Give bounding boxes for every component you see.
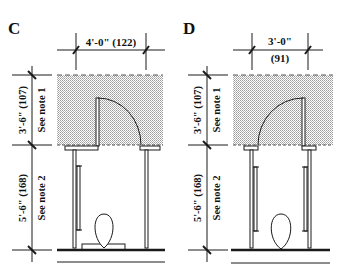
clearance-area-c	[57, 75, 163, 145]
grab-bar-right-d	[304, 167, 307, 231]
toilet-stall-diagrams: C 4'-0" (122) 3'-6" (107) See note 1 5'-…	[0, 0, 350, 276]
lower-depth-label-c: 5'-6" (168)	[17, 173, 29, 222]
front-partition-c	[65, 146, 160, 150]
figure-c: C 4'-0" (122) 3'-6" (107) See note 1 5'-…	[8, 19, 165, 262]
grab-bar-left-d	[254, 167, 257, 231]
toilet-c	[82, 214, 125, 250]
front-partition-d	[244, 146, 316, 150]
grab-bar-c	[77, 166, 80, 230]
lower-depth-note-c: See note 2	[36, 176, 47, 221]
upper-depth-label-d: 3'-6" (107)	[192, 85, 204, 134]
figure-label-d: D	[183, 19, 195, 38]
figure-label-c: C	[8, 19, 20, 38]
upper-depth-note-d: See note 1	[211, 88, 222, 133]
figure-d: D 3'-0" (91) 3'-6" (107) See note 1 5'-6…	[183, 19, 333, 263]
upper-depth-label-c: 3'-6" (107)	[17, 85, 29, 134]
width-dimension-label-d-line1: 3'-0"	[268, 35, 292, 47]
toilet-d	[271, 214, 291, 249]
lower-depth-label-d: 5'-6" (168)	[192, 173, 204, 222]
lower-depth-note-d: See note 2	[211, 176, 222, 221]
width-dimension-label-d-line2: (91)	[271, 52, 290, 65]
width-dimension-label-c: 4'-0" (122)	[86, 36, 137, 49]
upper-depth-note-c: See note 1	[36, 88, 47, 133]
clearance-area-d	[233, 75, 333, 145]
